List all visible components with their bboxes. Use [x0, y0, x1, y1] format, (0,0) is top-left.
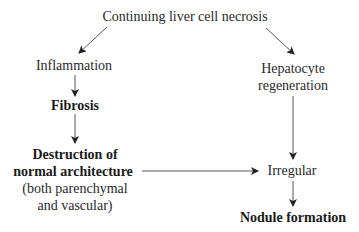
arrow-necrosis-to-inflammation [79, 27, 107, 53]
node-inflammation: Inflammation [34, 57, 114, 74]
node-destruction-line2: normal architecture [6, 163, 140, 180]
node-hepatocyte-line1: Hepatocyte [253, 60, 333, 77]
node-destruction-note1: (both parenchymal [10, 180, 140, 197]
node-hepatocyte-line2: regeneration [253, 77, 333, 94]
node-irregular: Irregular [262, 162, 322, 179]
node-nodule-formation: Nodule formation [234, 209, 352, 226]
node-necrosis: Continuing liver cell necrosis [100, 8, 270, 25]
node-destruction-line1: Destruction of [10, 146, 140, 163]
node-destruction-note2: and vascular) [10, 197, 140, 214]
node-fibrosis: Fibrosis [45, 97, 105, 114]
arrow-necrosis-to-hepatocyte [266, 28, 294, 54]
